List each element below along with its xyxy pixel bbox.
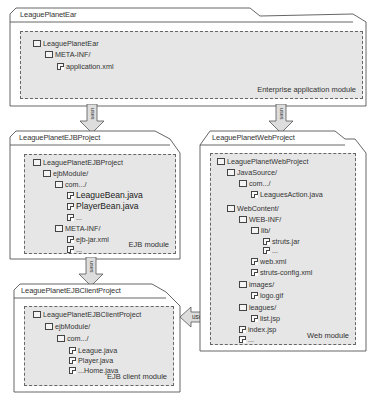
file-icon	[239, 336, 246, 343]
folder-icon	[217, 158, 225, 165]
ear-project-title: LeaguePlanetEar	[20, 10, 76, 19]
tree-folder: com.../	[55, 179, 87, 189]
tree-file: ...	[239, 334, 254, 344]
folder-icon	[239, 304, 247, 311]
tree-file: struts-config.xml	[251, 267, 312, 277]
file-icon	[263, 238, 270, 245]
tree-folder: ejbModule/	[43, 168, 88, 178]
uses-arrow-ear-to-ejb: uses	[79, 104, 105, 134]
tree-file: application.xml	[57, 61, 114, 71]
tree-file: ...	[67, 212, 82, 222]
tree-folder: ejbModule/	[45, 321, 90, 331]
file-icon	[69, 357, 76, 364]
tree-folder: LeaguePlanetWebProject	[217, 156, 308, 166]
folder-icon	[227, 205, 235, 212]
tree-folder: LeaguePlanetEar	[33, 38, 99, 48]
tree-file: LeaguesAction.java	[251, 189, 323, 199]
ejb-client-module: LeaguePlanetEJBClientProject ejbModule/ …	[24, 306, 174, 386]
tree-folder: leagues/	[239, 302, 276, 312]
tree-file: logo.gif	[251, 290, 283, 300]
tree-file: League.java	[69, 345, 117, 355]
tree-folder: com.../	[57, 333, 89, 343]
tree-folder: com.../	[239, 178, 271, 188]
ejb-module: LeaguePlanetEJBProject ejbModule/ com...…	[24, 154, 176, 254]
folder-icon	[43, 170, 51, 177]
folder-icon	[45, 51, 53, 58]
tree-file: ejb-jar.xml	[67, 234, 109, 244]
tree-file: list.jsp	[251, 313, 280, 323]
tree-file: index.jsp	[239, 324, 276, 334]
file-icon	[263, 247, 270, 254]
folder-icon	[57, 335, 65, 342]
folder-icon	[239, 216, 247, 223]
tree-file: PlayerBean.java	[67, 201, 139, 211]
uses-label: uses	[89, 261, 95, 273]
tree-folder: JavaSource/	[227, 167, 277, 177]
file-icon	[251, 269, 258, 276]
uses-label: uses	[90, 108, 96, 120]
file-icon	[69, 367, 76, 374]
folder-icon	[33, 40, 41, 47]
tree-file: Player.java	[69, 355, 113, 365]
folder-icon	[239, 281, 247, 288]
folder-icon	[45, 323, 53, 330]
web-module-label: Web module	[307, 331, 349, 340]
folder-icon	[33, 311, 41, 318]
file-icon	[67, 236, 74, 243]
web-module: LeaguePlanetWebProject JavaSource/ com..…	[210, 153, 356, 345]
folder-icon	[33, 159, 41, 166]
file-icon	[67, 246, 74, 253]
tree-folder: LeaguePlanetEJBClientProject	[33, 309, 141, 319]
file-icon	[251, 258, 258, 265]
folder-icon	[227, 169, 235, 176]
file-icon	[57, 63, 64, 70]
uses-arrow-ejb-to-client: uses	[78, 257, 104, 287]
ejb-project: LeaguePlanetEJBProject LeaguePlanetEJBPr…	[10, 131, 180, 259]
ear-module: LeaguePlanetEar META-INF/ application.xm…	[20, 31, 363, 99]
file-icon	[69, 347, 76, 354]
tree-folder: META-INF/	[45, 49, 90, 59]
web-project-title: LeaguePlanetWebProject	[212, 133, 295, 142]
file-icon	[67, 203, 74, 210]
web-project: LeaguePlanetWebProject LeaguePlanetWebPr…	[200, 131, 366, 351]
file-icon	[251, 292, 258, 299]
ejb-project-title: LeaguePlanetEJBProject	[19, 133, 100, 142]
ejb-module-label: EJB module	[129, 240, 169, 249]
tree-file: ...	[67, 244, 82, 254]
tree-folder: LeaguePlanetEJBProject	[33, 157, 123, 167]
uses-label: uses	[279, 108, 285, 120]
folder-icon	[251, 227, 259, 234]
tree-folder: WebContent/	[227, 203, 279, 213]
folder-icon	[239, 180, 247, 187]
file-icon	[251, 191, 258, 198]
tree-folder: images/	[239, 279, 274, 289]
tree-folder: WEB-INF/	[239, 214, 281, 224]
uses-arrow-ear-to-web: uses	[268, 104, 294, 134]
folder-icon	[55, 225, 63, 232]
ejb-client-project-title: LeaguePlanetEJBClientProject	[21, 286, 121, 295]
tree-folder: META-INF/	[55, 223, 100, 233]
file-icon	[67, 214, 74, 221]
ejb-client-module-label: EJB client module	[107, 372, 167, 381]
ear-module-label: Enterprise application module	[257, 85, 356, 94]
tree-file: web.xml	[251, 256, 286, 266]
file-icon	[239, 326, 246, 333]
folder-icon	[55, 181, 63, 188]
tree-file: ...	[263, 245, 278, 255]
file-icon	[67, 192, 74, 199]
tree-file: LeagueBean.java	[67, 190, 143, 200]
ear-project: LeaguePlanetEar LeaguePlanetEar META-INF…	[10, 8, 366, 106]
ejb-client-project: LeaguePlanetEJBClientProject LeaguePlane…	[14, 284, 180, 392]
tree-folder: lib/	[251, 225, 270, 235]
file-icon	[251, 315, 258, 322]
